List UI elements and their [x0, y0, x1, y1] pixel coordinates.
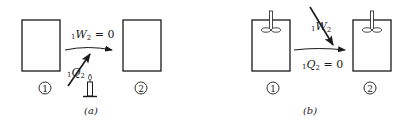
- heat-label: 1Q2 = 0: [302, 58, 343, 72]
- svg-text:1: 1: [270, 84, 276, 94]
- state-1-marker: 1: [39, 82, 51, 94]
- candle-icon: [83, 74, 97, 97]
- panel-caption: (a): [84, 105, 98, 116]
- svg-text:2: 2: [367, 84, 373, 94]
- state-1-marker: 1: [267, 82, 279, 94]
- heat-label: 1Q2: [67, 66, 85, 80]
- panel-b: 1W2 1Q2 = 0 1 2 (b): [252, 7, 391, 116]
- process-arrow: [294, 49, 345, 51]
- svg-text:1: 1: [42, 84, 48, 94]
- state-2-marker: 2: [135, 82, 147, 94]
- svg-text:2: 2: [138, 84, 144, 94]
- state-2-marker: 2: [364, 82, 376, 94]
- stirrer-icon: [363, 11, 382, 32]
- state-2-box: [123, 20, 161, 71]
- stirrer-icon: [262, 11, 281, 32]
- panel-a: 1W2 = 0 1Q2 1 2 (a): [22, 20, 161, 116]
- panel-caption: (b): [303, 105, 317, 116]
- process-arrow: [65, 48, 112, 51]
- thermo-process-diagram: 1W2 = 0 1Q2 1 2 (a): [0, 0, 407, 129]
- state-1-box: [22, 20, 60, 71]
- work-label: 1W2: [311, 20, 331, 34]
- work-label: 1W2 = 0: [71, 28, 114, 42]
